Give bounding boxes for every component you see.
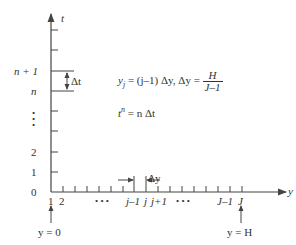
- x-ellipsis-left: • • •: [95, 197, 109, 206]
- tick-label-n-plus-1: n + 1: [14, 66, 38, 77]
- x-ellipsis-right: • • •: [176, 197, 190, 206]
- fraction-H-over-J-minus-1: H J–1: [203, 70, 223, 93]
- equation-tn: tn = n Δt: [118, 106, 155, 119]
- x-tick-label-J-minus-1: J–1: [217, 196, 233, 207]
- y-axis-label: y: [288, 186, 293, 197]
- tick-label-0: 0: [31, 187, 37, 198]
- x-tick-label-1: 1: [48, 196, 54, 207]
- boundary-left-label: y = 0: [38, 227, 61, 238]
- x-tick-label-J: J: [238, 196, 243, 207]
- x-tick-label-j: j: [144, 196, 147, 207]
- t-axis-label: t: [61, 13, 64, 24]
- equation-yj: yj = (j–1) Δy, Δy = H J–1: [118, 70, 223, 93]
- x-tick-label-j-plus-1: j+1: [151, 196, 167, 207]
- delta-t-label: Δt: [71, 76, 81, 87]
- delta-y-label: Δy: [148, 173, 161, 184]
- grid-diagram: [0, 0, 296, 245]
- tick-label-n: n: [31, 86, 37, 97]
- tick-label-2: 2: [31, 147, 37, 158]
- tick-label-1: 1: [31, 167, 37, 178]
- t-axis-ticks: [51, 30, 74, 172]
- boundary-right-label: y = H: [227, 227, 252, 238]
- vertical-ellipsis: •••: [32, 110, 36, 128]
- x-tick-label-j-minus-1: j–1: [126, 196, 140, 207]
- x-tick-label-2: 2: [59, 196, 65, 207]
